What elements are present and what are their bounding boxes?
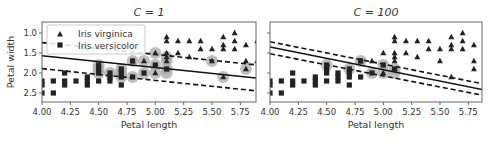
y-tick-label: 1.5 [23, 48, 37, 58]
virginica-marker [482, 58, 488, 63]
virginica-marker [164, 34, 170, 39]
virginica-marker [403, 50, 409, 55]
y-axis-label: Petal width [5, 36, 16, 89]
versicolor-marker [369, 70, 374, 75]
virginica-marker [471, 42, 477, 47]
legend-label-virginica: Iris virginica [78, 29, 133, 39]
virginica-marker [414, 38, 420, 43]
x-tick-label: 5.50 [431, 107, 450, 117]
x-tick-label: 5.00 [146, 107, 165, 117]
virginica-marker [437, 58, 443, 63]
x-tick-label: 5.75 [459, 107, 478, 117]
x-tick-label: 5.00 [374, 107, 393, 117]
versicolor-marker [119, 82, 124, 87]
versicolor-marker [73, 78, 78, 83]
chart-title: C = 100 [354, 6, 399, 19]
subplot-1: 4.004.254.504.755.005.255.505.751.01.52.… [5, 6, 260, 130]
virginica-marker [254, 38, 260, 43]
virginica-marker [186, 38, 192, 43]
versicolor-marker [358, 58, 363, 63]
x-tick-label: 4.75 [118, 107, 137, 117]
virginica-marker [403, 38, 409, 43]
subplot-2: 4.004.254.504.755.005.255.505.75C = 100P… [261, 6, 489, 130]
virginica-marker [243, 42, 249, 47]
virginica-marker [482, 38, 488, 43]
virginica-marker [186, 54, 192, 59]
virginica-marker [426, 46, 432, 51]
virginica-marker [460, 38, 466, 43]
virginica-marker [220, 34, 226, 39]
versicolor-marker [119, 66, 124, 71]
x-tick-label: 5.50 [203, 107, 222, 117]
virginica-marker [198, 46, 204, 51]
virginica-marker [232, 38, 238, 43]
virginica-marker [448, 42, 454, 47]
versicolor-marker [130, 74, 135, 79]
versicolor-marker [164, 66, 169, 71]
x-tick-label: 4.00 [33, 107, 52, 117]
versicolor-marker [51, 78, 56, 83]
x-tick-label: 4.25 [61, 107, 80, 117]
versicolor-marker [130, 58, 135, 63]
versicolor-marker [324, 62, 329, 67]
versicolor-marker [51, 90, 56, 95]
y-tick-label: 2.0 [23, 68, 37, 78]
x-tick-label: 5.25 [174, 107, 193, 117]
virginica-marker [471, 66, 477, 71]
plot-area [267, 30, 488, 96]
virginica-marker [426, 38, 432, 43]
virginica-marker [392, 34, 398, 39]
virginica-marker [232, 30, 238, 35]
virginica-marker [414, 54, 420, 59]
versicolor-marker [347, 66, 352, 71]
virginica-marker [175, 38, 181, 43]
x-axis-label: Petal length [121, 119, 178, 130]
y-tick-label: 1.0 [23, 28, 37, 38]
figure: 4.004.254.504.755.005.255.505.751.01.52.… [0, 0, 492, 142]
virginica-marker [460, 46, 466, 51]
versicolor-marker [85, 74, 90, 79]
versicolor-marker [301, 78, 306, 83]
virginica-marker [198, 38, 204, 43]
versicolor-marker [335, 70, 340, 75]
virginica-marker [243, 58, 249, 63]
virginica-marker [220, 42, 226, 47]
versicolor-marker [358, 74, 363, 79]
legend: Iris virginicaIris versicolor [47, 25, 145, 54]
virginica-marker [254, 58, 260, 63]
virginica-marker [369, 58, 375, 63]
x-tick-label: 4.50 [89, 107, 108, 117]
virginica-marker [460, 30, 466, 35]
virginica-marker [448, 34, 454, 39]
x-axis-label: Petal length [348, 119, 405, 130]
legend-label-versicolor: Iris versicolor [78, 41, 139, 51]
x-tick-label: 4.50 [317, 107, 336, 117]
x-tick-label: 4.25 [289, 107, 308, 117]
figure-canvas: 4.004.254.504.755.005.255.505.751.01.52.… [0, 0, 492, 142]
versicolor-marker [279, 78, 284, 83]
versicolor-marker [324, 78, 329, 83]
virginica-marker [392, 50, 398, 55]
x-tick-label: 4.75 [346, 107, 365, 117]
versicolor-marker [107, 70, 112, 75]
x-tick-label: 5.25 [402, 107, 421, 117]
decision-boundary-line [270, 47, 485, 90]
chart-title: C = 1 [134, 6, 165, 19]
virginica-marker [471, 58, 477, 63]
virginica-marker [209, 46, 215, 51]
versicolor-marker [313, 74, 318, 79]
virginica-marker [437, 46, 443, 51]
legend-square-icon [57, 42, 62, 47]
virginica-marker [380, 50, 386, 55]
virginica-marker [232, 46, 238, 51]
versicolor-marker [290, 70, 295, 75]
versicolor-marker [62, 70, 67, 75]
versicolor-marker [96, 62, 101, 67]
versicolor-marker [290, 78, 295, 83]
versicolor-marker [381, 62, 386, 67]
versicolor-marker [279, 90, 284, 95]
versicolor-marker [392, 66, 397, 71]
y-tick-label: 2.5 [23, 88, 37, 98]
versicolor-marker [141, 70, 146, 75]
x-tick-label: 4.00 [261, 107, 280, 117]
